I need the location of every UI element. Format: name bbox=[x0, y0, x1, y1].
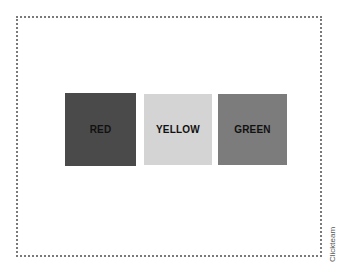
yellow-swatch[interactable]: YELLOW bbox=[144, 94, 212, 165]
red-label: RED bbox=[90, 124, 112, 135]
yellow-label: YELLOW bbox=[156, 124, 200, 135]
credit-text: Clickteam bbox=[328, 227, 337, 262]
red-swatch[interactable]: RED bbox=[65, 93, 136, 166]
green-swatch[interactable]: GREEN bbox=[218, 94, 287, 165]
green-label: GREEN bbox=[234, 124, 271, 135]
